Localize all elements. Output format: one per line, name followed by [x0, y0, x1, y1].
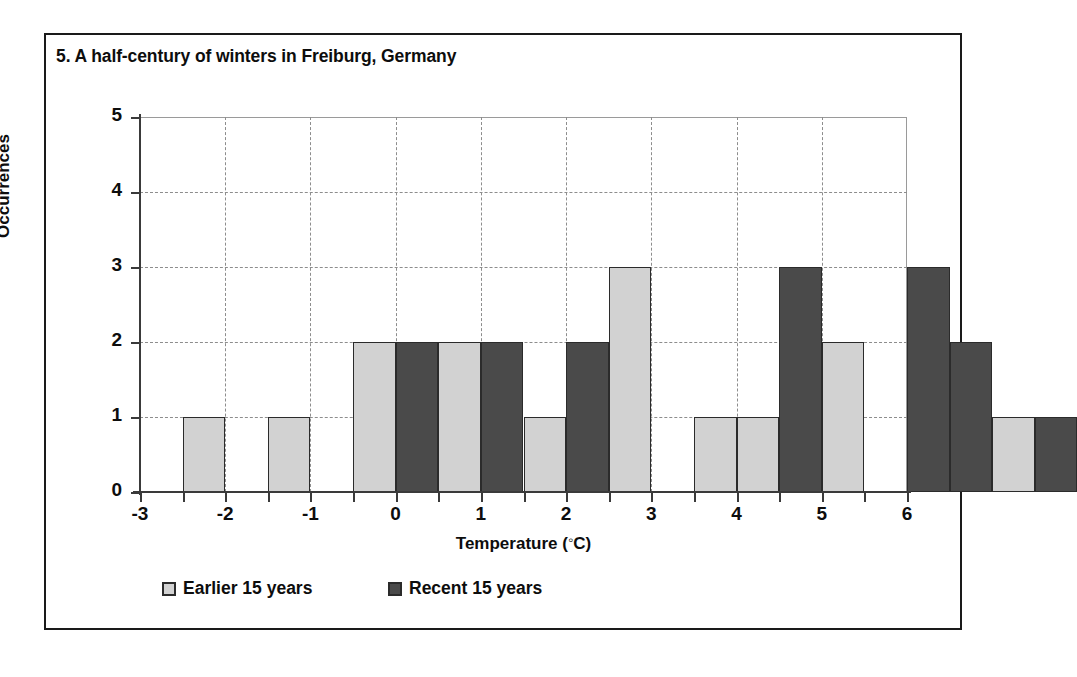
- x-axis-tick-label: 6: [884, 503, 930, 525]
- x-axis-tick: [310, 493, 312, 502]
- y-axis-tick: [131, 267, 141, 269]
- x-axis-tick: [822, 493, 824, 502]
- bar-earlier: [524, 417, 567, 492]
- bar-recent: [779, 267, 822, 492]
- x-axis-title-unit: C): [573, 534, 591, 553]
- x-axis-line: [133, 491, 911, 493]
- y-axis-tick: [131, 192, 141, 194]
- bar-recent: [907, 267, 950, 492]
- y-axis-tick-label: 3: [82, 254, 122, 276]
- x-axis-tick-label: -2: [202, 503, 248, 525]
- x-axis-tick: [353, 493, 355, 502]
- bar-earlier: [438, 342, 481, 492]
- chart-legend: Earlier 15 yearsRecent 15 years: [140, 578, 907, 608]
- bar-earlier: [694, 417, 737, 492]
- x-axis-tick: [524, 493, 526, 502]
- legend-item-recent: Recent 15 years: [388, 578, 542, 599]
- bar-earlier: [992, 417, 1035, 492]
- x-axis-title: Temperature (◦C): [140, 534, 907, 554]
- y-axis-tick-label: 0: [82, 479, 122, 501]
- bar-recent: [396, 342, 439, 492]
- x-axis-tick: [651, 493, 653, 502]
- bar-earlier: [822, 342, 865, 492]
- bar-recent: [481, 342, 524, 492]
- y-axis-tick-label: 1: [82, 404, 122, 426]
- x-axis-tick: [864, 493, 866, 502]
- x-axis-tick: [225, 493, 227, 502]
- x-axis-tick: [694, 493, 696, 502]
- x-axis-tick: [907, 493, 909, 502]
- x-axis-title-text: Temperature (: [456, 534, 568, 553]
- bar-earlier: [609, 267, 652, 492]
- legend-label: Earlier 15 years: [183, 578, 312, 599]
- y-axis-tick-labels: 012345: [78, 0, 122, 677]
- bar-recent: [566, 342, 609, 492]
- bar-earlier: [353, 342, 396, 492]
- legend-label: Recent 15 years: [409, 578, 542, 599]
- y-axis-tick: [131, 342, 141, 344]
- legend-swatch-icon: [388, 582, 402, 596]
- x-axis-tick: [737, 493, 739, 502]
- x-axis-tick-label: 3: [628, 503, 674, 525]
- bar-group: [140, 117, 907, 492]
- y-axis-tick-label: 4: [82, 179, 122, 201]
- x-axis-tick: [481, 493, 483, 502]
- x-axis-tick: [183, 493, 185, 502]
- x-axis-tick-label: -1: [287, 503, 333, 525]
- bar-earlier: [268, 417, 311, 492]
- x-axis-tick: [396, 493, 398, 502]
- bar-earlier: [183, 417, 226, 492]
- legend-swatch-icon: [162, 582, 176, 596]
- x-axis-tick-label: 4: [714, 503, 760, 525]
- y-axis-tick: [131, 117, 141, 119]
- x-axis-tick: [140, 493, 142, 502]
- y-axis-title: Occurrences: [0, 134, 14, 238]
- y-axis-tick-label: 2: [82, 329, 122, 351]
- x-axis-tick: [779, 493, 781, 502]
- bar-earlier: [737, 417, 780, 492]
- x-axis-tick-label: 2: [543, 503, 589, 525]
- x-axis-tick: [609, 493, 611, 502]
- x-axis-tick-label: 0: [373, 503, 419, 525]
- legend-item-earlier: Earlier 15 years: [162, 578, 312, 599]
- y-axis-tick-label: 5: [82, 104, 122, 126]
- bar-recent: [1035, 417, 1077, 492]
- x-axis-tick: [566, 493, 568, 502]
- x-axis-tick-label: 5: [799, 503, 845, 525]
- y-axis-tick: [131, 417, 141, 419]
- x-axis-tick-label: 1: [458, 503, 504, 525]
- y-axis-line: [139, 114, 141, 495]
- bar-recent: [950, 342, 993, 492]
- x-axis-tick: [438, 493, 440, 502]
- x-axis-tick: [268, 493, 270, 502]
- x-axis-tick-label: -3: [117, 503, 163, 525]
